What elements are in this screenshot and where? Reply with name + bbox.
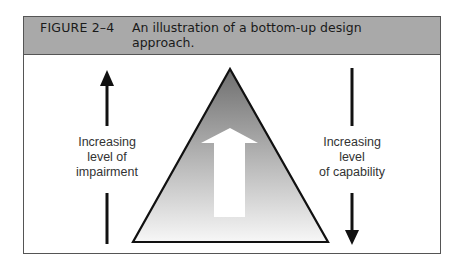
right-label-line-3: of capability (297, 165, 407, 180)
right-label-line-2: level (297, 150, 407, 165)
left-label: Increasing level of impairment (52, 135, 162, 180)
right-label: Increasing level of capability (297, 135, 407, 180)
left-label-line-2: level of (52, 150, 162, 165)
bottom-up-diagram (0, 0, 463, 265)
left-label-line-1: Increasing (52, 135, 162, 150)
left-label-line-3: impairment (52, 165, 162, 180)
right-label-line-1: Increasing (297, 135, 407, 150)
